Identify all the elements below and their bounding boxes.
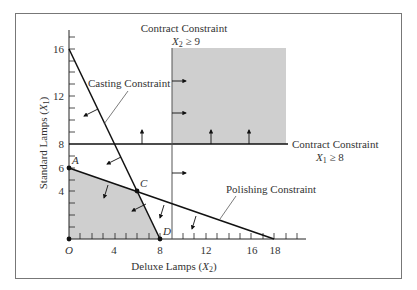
svg-text:12: 12 [201, 244, 212, 256]
contract-x2-title: Contract Constraint [141, 22, 227, 34]
contract-x2-inequality: X2 ≥ 9 [171, 35, 200, 49]
x-tick-labels: 4 8 12 16 18 [111, 244, 281, 256]
svg-text:4: 4 [111, 244, 117, 256]
polishing-label: Polishing Constraint [226, 183, 316, 195]
y-tick-labels: 4 6 8 12 16 [53, 43, 65, 197]
svg-text:8: 8 [157, 244, 163, 256]
origin-label: O [65, 244, 73, 256]
contract-x1-title: Contract Constraint [292, 138, 378, 150]
point-d-label: D [162, 225, 171, 237]
point-d-marker [158, 237, 163, 242]
svg-text:6: 6 [59, 162, 65, 174]
y-axis-title: Standard Lamps (X1) [37, 96, 51, 189]
point-a-marker [67, 166, 72, 171]
point-c-label: C [140, 177, 148, 189]
point-c-marker [135, 189, 140, 194]
svg-text:16: 16 [53, 43, 65, 55]
origin-marker [67, 237, 72, 242]
svg-text:16: 16 [247, 244, 259, 256]
point-a-label: A [71, 154, 79, 166]
svg-text:8: 8 [59, 138, 65, 150]
contract-x1-inequality: X1 ≥ 8 [315, 151, 344, 165]
contract-shaded-region [172, 48, 286, 144]
svg-text:12: 12 [53, 90, 64, 102]
casting-leader [104, 91, 128, 124]
svg-text:18: 18 [270, 244, 282, 256]
svg-text:4: 4 [59, 185, 65, 197]
lp-diagram: 4 8 12 16 18 4 6 8 12 16 A C D O Casting… [0, 0, 417, 290]
casting-label: Casting Constraint [88, 77, 170, 89]
polishing-leader [220, 196, 236, 219]
x-axis-title: Deluxe Lamps (X2) [131, 260, 217, 274]
